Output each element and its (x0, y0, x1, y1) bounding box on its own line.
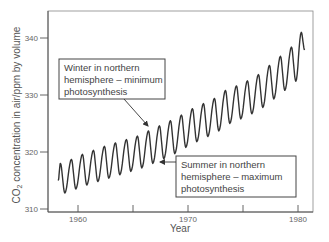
annotation-winter-line3: photosynthesis (64, 86, 128, 97)
y-tick-label: 320 (25, 148, 39, 157)
x-tick-label: 1960 (69, 215, 87, 224)
y-ticks: 310320330340 (25, 34, 48, 214)
annotation-summer-line3: photosynthesis (181, 183, 245, 194)
y-axis-title: CO2 concentration in air/ppm by volume (11, 26, 23, 203)
co2-chart: 310320330340 196019701980 CO2 concentrat… (0, 0, 329, 242)
arrow-icon (124, 99, 148, 126)
x-tick-label: 1980 (289, 215, 307, 224)
y-tick-label: 340 (25, 34, 39, 43)
annotation-summer-line1: Summer in northern (181, 159, 265, 170)
annotation-summer-line2: hemisphere – maximum (181, 171, 282, 182)
x-axis-title: Year (170, 223, 191, 234)
annotation-winter-line1: Winter in northern (64, 62, 140, 73)
annotation-winter: Winter in northern hemisphere – minimum … (59, 59, 165, 126)
y-tick-label: 330 (25, 91, 39, 100)
annotation-summer: Summer in northern hemisphere – maximum … (160, 156, 296, 197)
annotation-winter-line2: hemisphere – minimum (64, 74, 163, 85)
y-tick-label: 310 (25, 205, 39, 214)
x-ticks: 196019701980 (69, 205, 307, 224)
